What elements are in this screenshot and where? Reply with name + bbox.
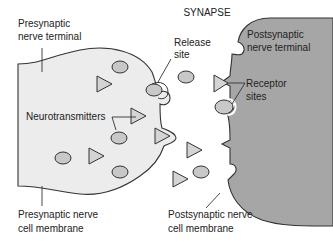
vesicle-at-receptor <box>215 100 233 114</box>
label-receptor-sites-line2: sites <box>246 91 267 102</box>
diagram-title: SYNAPSE <box>183 7 231 18</box>
vesicle <box>111 132 127 144</box>
leader-release-site <box>158 59 171 82</box>
label-postsynaptic-terminal-line2: nerve terminal <box>247 42 310 53</box>
neurotransmitter-triangle-cleft <box>187 142 202 158</box>
label-presynaptic-membrane-line2: cell membrane <box>18 223 84 234</box>
synapse-diagram: SYNAPSE Presynaptic nerve terminal Relea… <box>0 0 333 243</box>
vesicle-cleft <box>178 71 194 83</box>
label-presynaptic-terminal-line1: Presynaptic <box>18 18 70 29</box>
label-release-site-line2: site <box>174 49 190 60</box>
label-neurotransmitters: Neurotransmitters <box>26 111 105 122</box>
vesicle <box>112 61 128 73</box>
leader-postsynaptic-membrane <box>206 193 220 208</box>
label-presynaptic-terminal-line2: nerve terminal <box>18 31 81 42</box>
label-postsynaptic-membrane-line1: Postsynaptic nerve <box>168 209 253 220</box>
receptor-site-neurotransmitter <box>214 75 228 92</box>
label-presynaptic-membrane-line1: Presynaptic nerve <box>18 209 98 220</box>
label-receptor-sites-line1: Receptor <box>246 78 287 89</box>
label-postsynaptic-membrane-line2: cell membrane <box>168 223 234 234</box>
neurotransmitter-triangle-cleft <box>173 171 188 187</box>
label-release-site-line1: Release <box>174 37 211 48</box>
vesicle <box>55 152 71 164</box>
vesicle-release-site <box>146 84 162 96</box>
label-postsynaptic-terminal-line1: Postsynaptic <box>247 29 304 40</box>
vesicle <box>112 166 128 178</box>
vesicle-cleft <box>193 166 209 178</box>
